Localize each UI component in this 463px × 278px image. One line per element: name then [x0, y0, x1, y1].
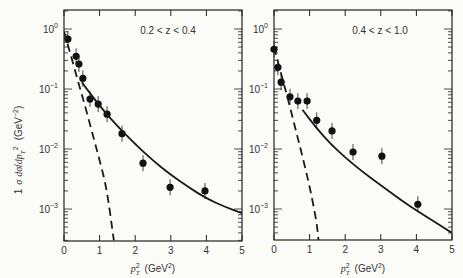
y-tick-label: 10−1 [39, 82, 58, 95]
x-tick-label: 0 [61, 245, 67, 256]
y-tick-label: 10−3 [249, 202, 268, 215]
solid-curve [82, 82, 242, 213]
x-tick-label: 1 [97, 245, 103, 256]
x-tick-label: 1 [307, 244, 313, 255]
panel-label: 0.4 < z < 1.0 [352, 25, 408, 36]
y-tick-label: 100 [43, 22, 58, 35]
svg-text:1σdσ/dpT2(GeV−2): 1σdσ/dpT2(GeV−2) [12, 106, 27, 195]
y-axis-title: 1σdσ/dpT2(GeV−2) [12, 106, 27, 195]
x-axis-title: pT2(GeV2) [130, 262, 175, 277]
data-point [304, 97, 311, 104]
solid-curve [302, 110, 452, 233]
plot-frame [274, 10, 452, 240]
x-tick-label: 3 [378, 244, 384, 255]
data-point [313, 117, 320, 124]
data-point [328, 127, 335, 134]
panel-right: 01234510010−110−210−30.4 < z < 1.0pT2(Ge… [249, 10, 455, 277]
y-tick-label: 10−1 [249, 82, 268, 95]
panel-label: 0.2 < z < 0.4 [140, 25, 196, 36]
chart-figure: 1σdσ/dpT2(GeV−2) 01234510010−110−210−30.… [0, 0, 463, 278]
data-point [294, 97, 301, 104]
data-point [349, 148, 356, 155]
x-tick-label: 3 [168, 245, 174, 256]
panel-left: 01234510010−110−210−30.2 < z < 0.4pT2(Ge… [39, 10, 245, 277]
y-tick-label: 10−2 [39, 142, 58, 155]
data-point [166, 184, 173, 191]
y-tick-label: 10−3 [39, 202, 58, 215]
x-tick-label: 5 [239, 245, 245, 256]
x-tick-label: 0 [271, 244, 277, 255]
y-tick-label: 10−2 [249, 142, 268, 155]
data-point [139, 160, 146, 167]
data-point [201, 187, 208, 194]
x-axis-title: pT2(GeV2) [340, 262, 385, 277]
x-tick-label: 5 [449, 244, 455, 255]
x-tick-label: 2 [342, 244, 348, 255]
x-tick-label: 4 [414, 244, 420, 255]
x-tick-label: 2 [132, 245, 138, 256]
data-point [75, 61, 82, 68]
data-point [79, 75, 86, 82]
x-tick-label: 4 [204, 245, 210, 256]
y-tick-label: 100 [253, 22, 268, 35]
data-point [414, 201, 421, 208]
data-point [378, 153, 385, 160]
